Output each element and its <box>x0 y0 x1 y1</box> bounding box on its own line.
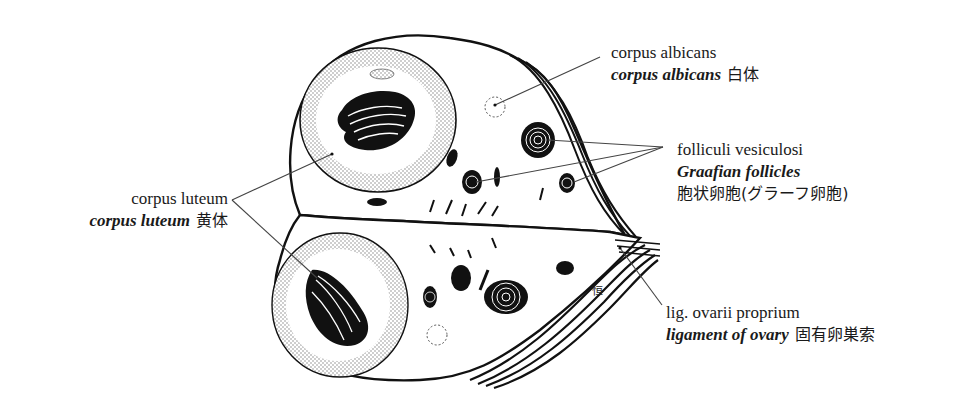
folliculi-vesiculosi-latin: folliculi vesiculosi <box>677 139 848 161</box>
lower-lobe <box>272 215 660 388</box>
label-folliculi-vesiculosi: folliculi vesiculosi Graafian follicles … <box>677 139 848 205</box>
corpus-albicans-japanese: 白体 <box>727 65 759 84</box>
artist-signature: 恒 <box>592 282 603 298</box>
label-corpus-luteum: corpus luteum corpus luteum黄体 <box>89 188 228 232</box>
corpus-albicans-latin: corpus albicans <box>611 42 759 64</box>
corpus-luteum-latin: corpus luteum <box>89 188 228 210</box>
corpus-luteum-japanese: 黄体 <box>196 211 228 230</box>
label-corpus-albicans: corpus albicans corpus albicans白体 <box>611 42 759 86</box>
lig-ovarii-proprium-latin: lig. ovarii proprium <box>666 302 875 324</box>
corpus-luteum-english: corpus luteum <box>89 211 190 230</box>
lig-ovarii-proprium-english: ligament of ovary <box>666 325 789 344</box>
corpus-albicans-english: corpus albicans <box>611 65 721 84</box>
folliculi-vesiculosi-english: Graafian follicles <box>677 161 848 183</box>
label-lig-ovarii-proprium: lig. ovarii proprium ligament of ovary固有… <box>666 302 875 346</box>
anatomy-figure: 恒 corpus albicans corpus albicans白体 foll… <box>0 0 976 413</box>
folliculi-vesiculosi-japanese: 胞状卵胞(グラーフ卵胞) <box>677 183 848 205</box>
lig-ovarii-proprium-japanese: 固有卵巣索 <box>795 325 875 344</box>
upper-lobe <box>290 35 636 237</box>
